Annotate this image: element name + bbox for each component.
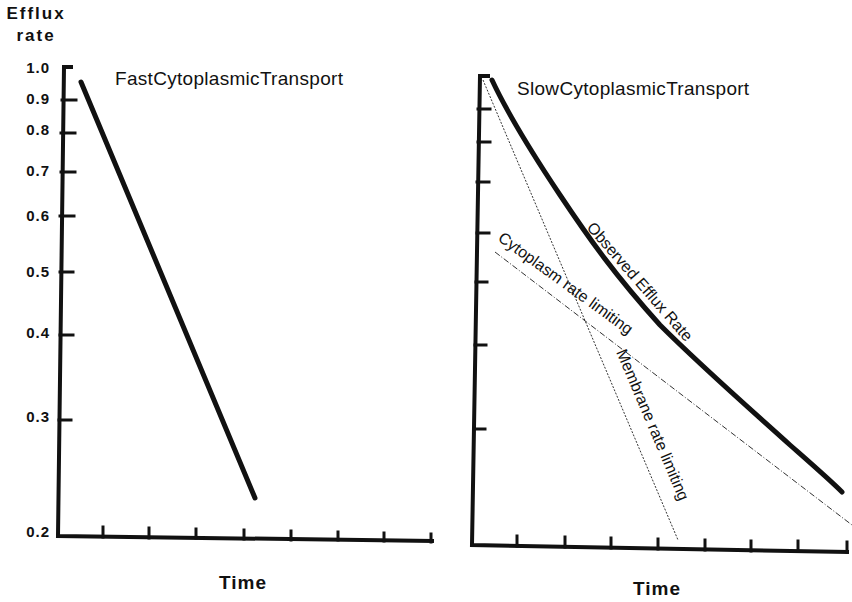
chart-canvas: Observed Efflux Rate Cytoplasm rate limi… [0, 0, 852, 602]
fast-efflux-line [81, 82, 255, 498]
observed-curve-label: Observed Efflux Rate [584, 219, 696, 345]
observed-efflux-curve [492, 80, 842, 492]
